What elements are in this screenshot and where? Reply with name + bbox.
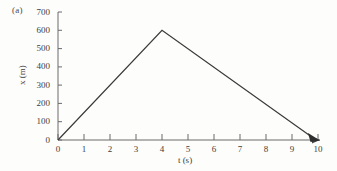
series-polyline	[58, 30, 316, 140]
x-tick-label: 6	[206, 145, 222, 154]
x-tick-label: 8	[258, 145, 274, 154]
y-tick-label: 100	[24, 117, 50, 126]
x-tick-label: 4	[154, 145, 170, 154]
x-tick-label: 10	[310, 145, 326, 154]
y-tick-label: 200	[24, 99, 50, 108]
y-tick-label: 600	[24, 26, 50, 35]
y-tick-label: 700	[24, 8, 50, 17]
axes-group	[58, 12, 320, 144]
figure-panel: (a)	[0, 0, 337, 171]
x-tick-label: 7	[232, 145, 248, 154]
data-series-line	[58, 30, 320, 142]
y-tick-label: 300	[24, 81, 50, 90]
y-tick-label: 500	[24, 44, 50, 53]
x-tick-label: 2	[102, 145, 118, 154]
x-axis-ticks	[58, 134, 318, 140]
y-axis-label: x (m)	[17, 47, 27, 103]
x-tick-label: 3	[128, 145, 144, 154]
y-tick-label: 400	[24, 62, 50, 71]
x-axis-label: t (s)	[160, 155, 210, 165]
x-tick-label: 5	[180, 145, 196, 154]
y-axis-ticks	[58, 12, 62, 140]
y-tick-label: 0	[24, 136, 50, 145]
x-tick-label: 1	[76, 145, 92, 154]
x-tick-label: 0	[50, 145, 66, 154]
x-tick-label: 9	[284, 145, 300, 154]
